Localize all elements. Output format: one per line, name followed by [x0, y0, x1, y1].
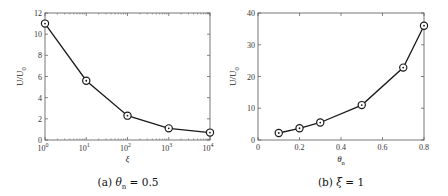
y-tick-label: 10	[34, 30, 42, 39]
axes-box	[45, 13, 210, 140]
figure-caption: (b) ξ = 1	[318, 176, 364, 188]
figure-caption: (a) θn = 0.5	[98, 176, 159, 191]
y-tick-label: 12	[34, 9, 42, 18]
y-tick-label: 2	[38, 115, 42, 124]
x-tick-label: 0.6	[378, 143, 388, 152]
data-point-dot	[402, 67, 404, 69]
x-axis-label: θn	[337, 154, 345, 166]
x-tick-label: 0	[256, 143, 260, 152]
x-tick-label: 100	[38, 142, 49, 153]
data-point-dot	[127, 115, 129, 117]
y-tick-label: 10	[247, 104, 255, 113]
data-line	[279, 26, 424, 133]
chart-panel-b: 01020304000.20.40.60.8U/U0θn(b) ξ = 1	[228, 9, 429, 188]
data-point-dot	[278, 132, 280, 134]
y-tick-label: 30	[247, 41, 255, 50]
data-point-dot	[168, 127, 170, 129]
y-tick-label: 40	[247, 9, 255, 18]
x-tick-label: 0.2	[295, 143, 305, 152]
data-point-dot	[209, 132, 211, 134]
y-tick-label: 0	[251, 136, 255, 145]
y-tick-label: 8	[38, 51, 42, 60]
y-tick-label: 4	[38, 94, 42, 103]
chart-panel-a: 024681012100101102103104U/U0ξ(a) θn = 0.…	[15, 9, 214, 191]
y-tick-label: 6	[38, 73, 42, 82]
figure: 024681012100101102103104U/U0ξ(a) θn = 0.…	[0, 0, 448, 196]
data-point-dot	[361, 104, 363, 106]
data-point-dot	[44, 23, 46, 25]
data-point-dot	[299, 127, 301, 129]
data-point-dot	[319, 122, 321, 124]
axes-box	[258, 13, 424, 140]
x-tick-label: 103	[161, 142, 172, 153]
data-point-dot	[423, 25, 425, 27]
x-axis-label: ξ	[126, 154, 130, 164]
x-tick-label: 0.4	[336, 143, 346, 152]
y-axis-label: U/U0	[15, 67, 27, 86]
data-point-dot	[85, 80, 87, 82]
x-tick-label: 101	[79, 142, 90, 153]
x-tick-label: 104	[203, 142, 214, 153]
y-axis-label: U/U0	[228, 67, 240, 86]
y-tick-label: 20	[247, 73, 255, 82]
x-tick-label: 102	[120, 142, 131, 153]
x-tick-label: 0.8	[419, 143, 429, 152]
